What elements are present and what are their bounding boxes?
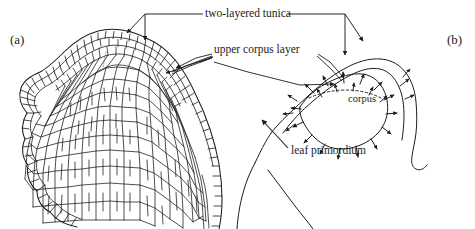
- label-corpus: corpus: [348, 94, 376, 105]
- figure-shoot-apical-meristem: (a) (b) two-layered tunica upper corpus …: [0, 0, 475, 229]
- callout-upper-corpus-layer: upper corpus layer: [214, 44, 300, 56]
- panel-label-b: (b): [447, 33, 462, 46]
- panel-label-a: (a): [10, 33, 24, 46]
- leaf-primordium-left-flank: [237, 163, 255, 229]
- callout-line-upper-corpus-layer: [166, 54, 344, 85]
- leaf-primordium-left-inner: [268, 170, 313, 229]
- callout-leaf-primordium: leaf primordium: [291, 145, 366, 157]
- callout-two-layered-tunica: two-layered tunica: [205, 8, 291, 20]
- corpus-boundary: [300, 74, 388, 149]
- stippled-wall-detail: [103, 52, 106, 68]
- diagram-artwork: [0, 0, 475, 229]
- l2-anticlinal-walls: [28, 39, 188, 114]
- panel-a-cell-drawing: [20, 29, 222, 229]
- callout-line-leaf-primordium: [262, 120, 288, 148]
